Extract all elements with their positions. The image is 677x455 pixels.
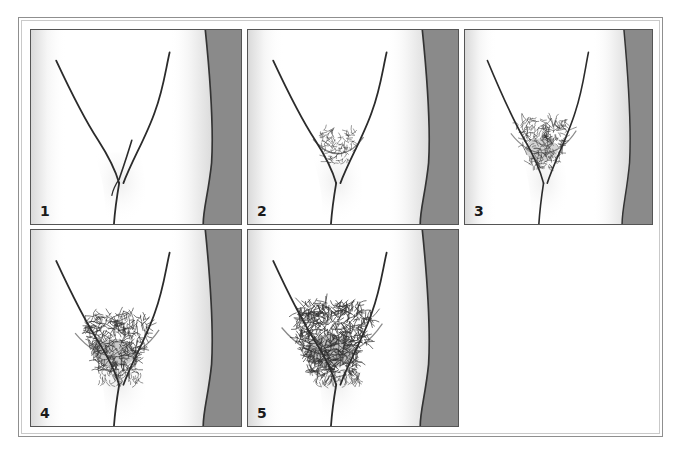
stage-number-label-4: 4 <box>40 406 50 420</box>
stage-panel-1: 1 <box>30 29 242 225</box>
stage-panel-4: 4 <box>30 229 242 427</box>
stage-panel-5: 5 <box>247 229 459 427</box>
stage-illustration-2 <box>248 30 458 224</box>
stage-illustration-4 <box>31 230 241 426</box>
figure-outer-frame: 12345 <box>18 17 663 437</box>
stage-illustration-3 <box>465 30 652 224</box>
stage-number-label-3: 3 <box>474 204 484 218</box>
stage-panel-2: 2 <box>247 29 459 225</box>
stage-number-label-2: 2 <box>257 204 267 218</box>
stage-panel-3: 3 <box>464 29 653 225</box>
stage-illustration-1 <box>31 30 241 224</box>
stage-number-label-1: 1 <box>40 204 50 218</box>
stage-illustration-5 <box>248 230 458 426</box>
stage-number-label-5: 5 <box>257 406 267 420</box>
panel-grid: 12345 <box>19 18 662 436</box>
